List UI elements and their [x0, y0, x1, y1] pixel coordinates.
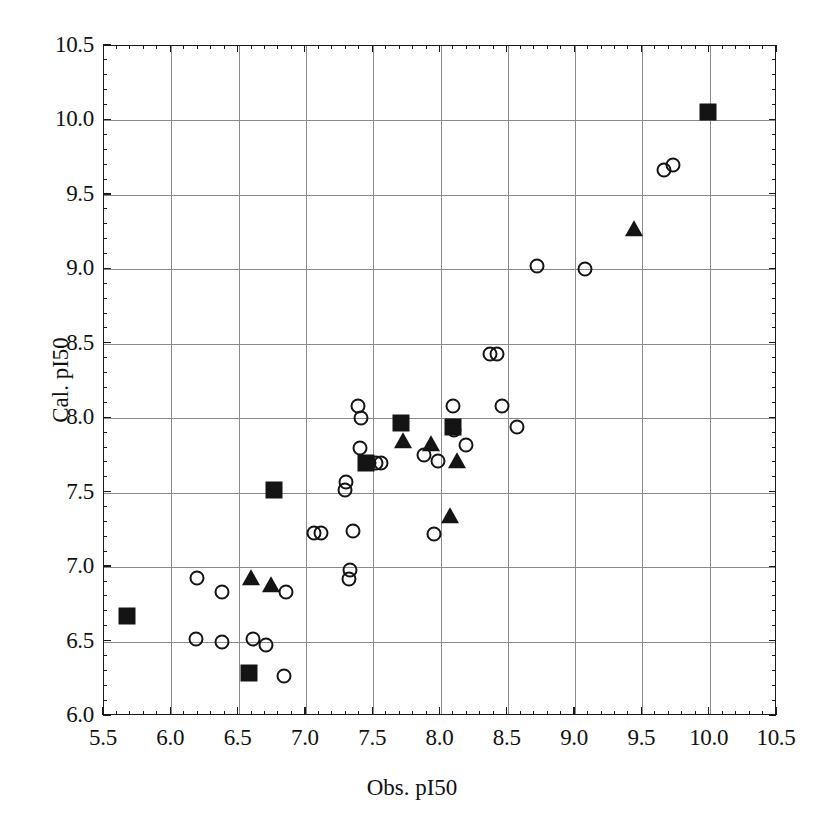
- y-tick-minor: [103, 536, 107, 537]
- gridline-horizontal: [104, 567, 775, 568]
- y-tick-right: [772, 149, 776, 150]
- data-point-triangle: [625, 220, 643, 236]
- x-tick-minor: [452, 711, 453, 715]
- data-point-circle: [666, 158, 681, 173]
- x-tick-major: [170, 707, 171, 715]
- x-tick-minor: [722, 711, 723, 715]
- x-tick-major: [439, 707, 440, 715]
- data-point-circle: [445, 399, 460, 414]
- x-tick-label: 6.0: [156, 725, 184, 751]
- y-tick-minor: [103, 461, 107, 462]
- x-tick-top: [506, 45, 507, 52]
- x-tick-minor: [493, 711, 494, 715]
- x-tick-top: [654, 45, 655, 49]
- y-tick-label: 10.0: [38, 106, 94, 132]
- y-tick-right: [772, 59, 776, 60]
- x-tick-top: [345, 45, 346, 49]
- y-tick-minor: [103, 298, 107, 299]
- x-tick-top: [331, 45, 332, 49]
- x-tick-top: [533, 45, 534, 49]
- y-tick-minor: [103, 253, 107, 254]
- y-tick-right: [772, 313, 776, 314]
- x-tick-minor: [560, 711, 561, 715]
- x-tick-minor: [627, 711, 628, 715]
- x-tick-top: [412, 45, 413, 49]
- x-tick-top: [560, 45, 561, 49]
- x-tick-top: [372, 45, 373, 52]
- y-tick-minor: [103, 74, 107, 75]
- x-tick-top: [399, 45, 400, 49]
- gridline-horizontal: [104, 344, 775, 345]
- x-tick-top: [291, 45, 292, 49]
- y-tick-right: [769, 193, 776, 194]
- y-tick-right: [772, 89, 776, 90]
- x-tick-top: [668, 45, 669, 49]
- data-point-triangle: [448, 453, 466, 469]
- x-tick-major: [641, 707, 642, 715]
- y-tick-right: [772, 685, 776, 686]
- y-tick-minor: [103, 223, 107, 224]
- x-tick-minor: [695, 711, 696, 715]
- y-tick-minor: [103, 670, 107, 671]
- x-tick-top: [762, 45, 763, 49]
- x-tick-top: [224, 45, 225, 49]
- y-tick-right: [769, 45, 776, 46]
- x-tick-label: 10.5: [756, 725, 795, 751]
- y-tick-right: [772, 253, 776, 254]
- gridline-horizontal: [104, 195, 775, 196]
- y-tick-right: [772, 655, 776, 656]
- y-tick-minor: [103, 149, 107, 150]
- data-point-circle: [354, 411, 369, 426]
- x-tick-minor: [358, 711, 359, 715]
- data-point-triangle: [441, 508, 459, 524]
- data-point-triangle: [262, 576, 280, 592]
- x-tick-top: [358, 45, 359, 49]
- data-point-circle: [278, 585, 293, 600]
- y-tick-right: [772, 134, 776, 135]
- y-tick-minor: [103, 313, 107, 314]
- data-point-circle: [215, 585, 230, 600]
- data-point-triangle: [422, 435, 440, 451]
- x-tick-minor: [277, 711, 278, 715]
- y-tick-right: [772, 179, 776, 180]
- x-tick-minor: [520, 711, 521, 715]
- gridline-vertical: [642, 46, 643, 714]
- x-tick-minor: [318, 711, 319, 715]
- x-tick-top: [277, 45, 278, 49]
- y-tick-minor: [103, 432, 107, 433]
- x-tick-minor: [129, 711, 130, 715]
- x-tick-top: [426, 45, 427, 49]
- x-tick-top: [627, 45, 628, 49]
- x-tick-label: 6.5: [224, 725, 252, 751]
- x-tick-top: [466, 45, 467, 49]
- x-tick-label: 8.0: [426, 725, 454, 751]
- data-point-circle: [352, 441, 367, 456]
- y-tick-right: [772, 432, 776, 433]
- y-tick-right: [772, 581, 776, 582]
- y-tick-major: [103, 119, 111, 120]
- y-tick-right: [769, 491, 776, 492]
- y-tick-right: [772, 551, 776, 552]
- y-tick-right: [772, 74, 776, 75]
- x-tick-minor: [735, 711, 736, 715]
- y-tick-major: [103, 714, 111, 715]
- x-tick-top: [452, 45, 453, 49]
- x-tick-top: [439, 45, 440, 52]
- data-point-circle: [277, 668, 292, 683]
- y-tick-minor: [103, 506, 107, 507]
- x-tick-major: [372, 707, 373, 715]
- data-point-circle: [430, 454, 445, 469]
- y-tick-right: [772, 104, 776, 105]
- y-tick-major: [103, 193, 111, 194]
- y-tick-minor: [103, 610, 107, 611]
- data-point-triangle: [242, 569, 260, 585]
- y-tick-minor: [103, 700, 107, 701]
- x-tick-minor: [587, 711, 588, 715]
- y-tick-right: [772, 595, 776, 596]
- x-tick-label: 8.5: [493, 725, 521, 751]
- y-tick-label: 9.0: [38, 255, 94, 281]
- gridline-horizontal: [104, 642, 775, 643]
- y-tick-minor: [103, 89, 107, 90]
- y-tick-right: [772, 223, 776, 224]
- x-tick-top: [318, 45, 319, 49]
